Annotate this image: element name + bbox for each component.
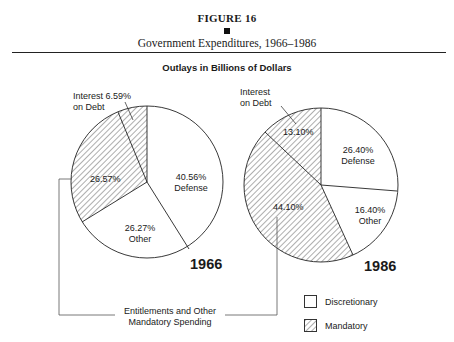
callout-line1: Entitlements and Other — [115, 306, 225, 317]
pie-1986-interest-label: Interest on Debt — [240, 87, 272, 109]
pie-1966-defense-value: 40.56% — [166, 172, 216, 183]
pie-1986-interest-line1: Interest — [240, 87, 272, 98]
pie-1966-defense-label: 40.56% Defense — [166, 172, 216, 194]
pie-1986-defense-name: Defense — [333, 156, 383, 167]
pie-1986-defense-value: 26.40% — [333, 145, 383, 156]
pie-1986-year-label: 1986 — [364, 258, 396, 274]
pie-1966-other-label: 26.27% Other — [115, 223, 165, 245]
pie-1986-other-name: Other — [345, 216, 395, 227]
pie-1986-interest-value: 13.10% — [283, 127, 314, 138]
pie-1966-mandatory-label: 26.57% — [90, 174, 121, 185]
pie-1986-interest-line2: on Debt — [240, 98, 272, 109]
hatched-swatch-icon — [304, 319, 317, 332]
legend-item-discretionary: Discretionary — [304, 295, 378, 308]
pie-1966-other-value: 26.27% — [115, 223, 165, 234]
callout-line2: Mandatory Spending — [115, 317, 225, 328]
legend-label-mandatory: Mandatory — [325, 321, 368, 331]
blank-swatch-icon — [304, 295, 317, 308]
pie-1966-other-name: Other — [115, 234, 165, 245]
pie-charts-graphic — [0, 0, 454, 342]
pie-1966-year-label: 1966 — [190, 256, 222, 272]
callout-label: Entitlements and Other Mandatory Spendin… — [115, 306, 225, 328]
pie-1986-other-label: 16.40% Other — [345, 205, 395, 227]
pie-1966-defense-name: Defense — [166, 183, 216, 194]
legend-item-mandatory: Mandatory — [304, 319, 368, 332]
pie-1986-defense-label: 26.40% Defense — [333, 145, 383, 167]
pie-1986-other-value: 16.40% — [345, 205, 395, 216]
pie-1986 — [244, 106, 398, 262]
pie-1966-interest-label: Interest 6.59% on Debt — [73, 91, 131, 113]
legend-label-discretionary: Discretionary — [325, 297, 378, 307]
pie-1986-mandatory-label: 44.10% — [273, 202, 304, 213]
pie-1966-interest-value: Interest 6.59% — [73, 91, 131, 102]
pie-1966-interest-name: on Debt — [73, 102, 131, 113]
